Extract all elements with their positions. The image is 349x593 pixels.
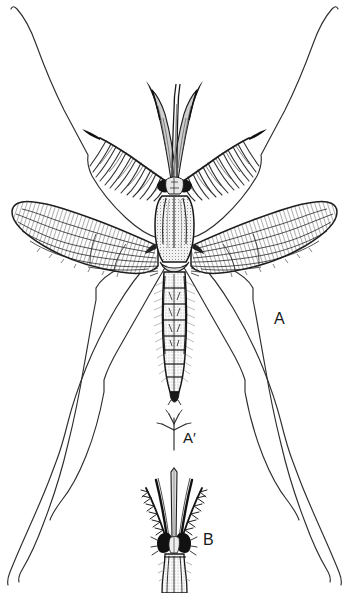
figure-label-b: B — [203, 532, 214, 548]
figure-label-a-prime: A′ — [183, 430, 196, 445]
illustration-plate: A A′ B — [0, 0, 349, 593]
mosquito-plate-drawing — [0, 0, 349, 593]
figure-label-a: A — [274, 311, 285, 327]
